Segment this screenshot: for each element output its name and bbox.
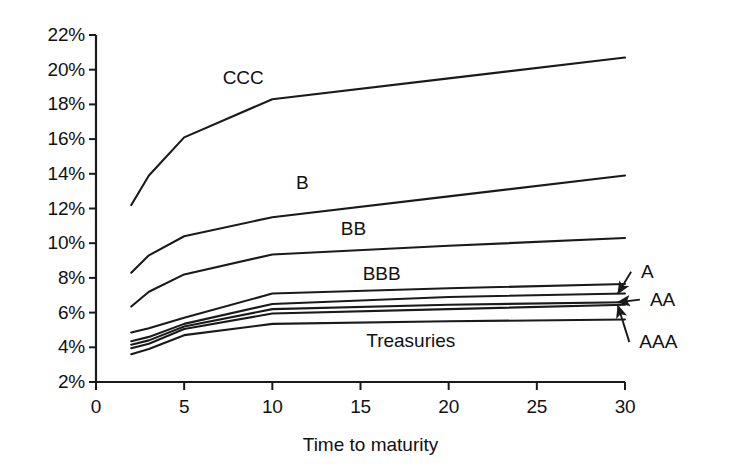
series-label-b: B bbox=[296, 172, 309, 194]
callout-label-aa: AA bbox=[650, 289, 675, 311]
x-axis-title: Time to maturity bbox=[303, 434, 439, 456]
y-tick-label: 16% bbox=[12, 128, 85, 150]
x-tick-label: 15 bbox=[350, 396, 371, 418]
y-tick-label: 22% bbox=[12, 24, 85, 46]
series-line-ccc bbox=[131, 58, 625, 205]
callout-arrow-aa bbox=[618, 300, 640, 303]
callout-label-a: A bbox=[641, 261, 654, 283]
callout-arrow-a bbox=[618, 272, 631, 294]
y-tick-label: 14% bbox=[12, 163, 85, 185]
x-tick-label: 20 bbox=[438, 396, 459, 418]
x-tick-label: 10 bbox=[262, 396, 283, 418]
y-tick-label: 12% bbox=[12, 198, 85, 220]
callout-label-aaa: AAA bbox=[639, 331, 677, 353]
x-tick-label: 25 bbox=[526, 396, 547, 418]
y-tick-label: 4% bbox=[12, 336, 85, 358]
chart-callout-arrows bbox=[618, 272, 640, 342]
callout-arrow-aaa bbox=[618, 306, 629, 342]
x-tick-label: 30 bbox=[615, 396, 636, 418]
y-tick-label: 20% bbox=[12, 59, 85, 81]
series-label-bbb: BBB bbox=[363, 263, 401, 285]
x-tick-label: 0 bbox=[91, 396, 101, 418]
y-tick-label: 8% bbox=[12, 267, 85, 289]
y-tick-label: 2% bbox=[12, 371, 85, 393]
y-tick-label: 6% bbox=[12, 302, 85, 324]
series-label-bb: BB bbox=[341, 218, 366, 240]
series-line-b bbox=[131, 176, 625, 273]
x-tick-label: 5 bbox=[179, 396, 189, 418]
series-label-ccc: CCC bbox=[223, 67, 264, 89]
y-tick-label: 10% bbox=[12, 232, 85, 254]
chart-series-lines bbox=[131, 58, 625, 355]
y-tick-label: 18% bbox=[12, 93, 85, 115]
yield-curve-chart: 2%4%6%8%10%12%14%16%18%20%22% 0510152025… bbox=[0, 0, 736, 469]
series-label-treasuries: Treasuries bbox=[366, 330, 455, 352]
